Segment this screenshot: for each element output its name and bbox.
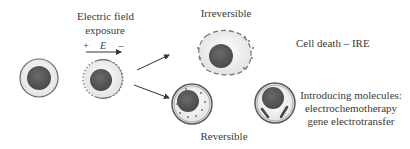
exposed-cell: [83, 60, 123, 99]
exposure-label-line2: exposure: [77, 24, 133, 36]
irreversible-cell: [197, 30, 254, 74]
field-symbol: E: [97, 40, 109, 52]
outcome-arrows: [134, 55, 169, 98]
introducing-label-line3: gene electrotransfer: [296, 115, 406, 127]
minus-sign: –: [117, 40, 125, 52]
introducing-label-line2: electrochemotherapy: [296, 102, 406, 114]
intact-cell: [20, 59, 58, 97]
irreversible-label: Irreversible: [196, 7, 256, 19]
cell-death-label: Cell death – IRE: [296, 37, 370, 49]
reversible-cell: [172, 84, 212, 124]
exposure-label-line1: Electric field: [77, 10, 133, 22]
reversible-label: Reversible: [196, 130, 252, 142]
plus-sign: +: [82, 40, 90, 52]
molecule-uptake-cell: [255, 83, 295, 123]
introducing-label-line1: Introducing molecules:: [296, 89, 406, 101]
